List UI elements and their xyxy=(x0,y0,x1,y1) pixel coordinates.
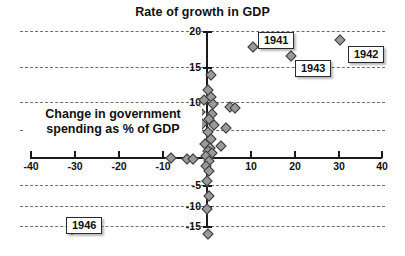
x-tick-label-10: 10 xyxy=(245,160,257,172)
x-tick-label-neg30: -30 xyxy=(67,160,82,172)
callout-1946: 1946 xyxy=(66,217,102,234)
data-point xyxy=(216,140,227,151)
x-tick-neg30 xyxy=(74,151,76,158)
y-tick-label-neg10: -10 xyxy=(172,200,201,212)
x-axis-title: Change in government spending as % of GD… xyxy=(24,107,202,137)
x-tick-30 xyxy=(338,151,340,158)
x-tick-neg40 xyxy=(30,151,32,158)
y-tick-label-neg15: -15 xyxy=(172,220,201,232)
x-tick-label-neg40: -40 xyxy=(23,160,38,172)
callout-1943: 1943 xyxy=(295,60,331,77)
data-point xyxy=(220,122,231,133)
y-tick-label-15: 15 xyxy=(178,61,201,73)
data-point-1942 xyxy=(334,34,345,45)
callout-1942: 1942 xyxy=(348,46,384,63)
callout-1941: 1941 xyxy=(258,32,294,49)
data-point xyxy=(203,229,214,240)
data-point xyxy=(229,103,240,114)
x-tick-neg20 xyxy=(118,151,120,158)
x-tick-label-40: 40 xyxy=(376,160,388,172)
x-tick-10 xyxy=(250,151,252,158)
x-tick-label-20: 20 xyxy=(289,160,301,172)
y-tick-label-20: 20 xyxy=(178,25,201,37)
y-tick-label-neg5: -5 xyxy=(175,179,201,191)
data-point xyxy=(203,190,214,201)
x-tick-40 xyxy=(381,151,383,158)
x-tick-20 xyxy=(294,151,296,158)
x-tick-neg10 xyxy=(162,151,164,158)
x-tick-label-30: 30 xyxy=(333,160,345,172)
x-tick-label-neg20: -20 xyxy=(111,160,126,172)
scatter-chart: Rate of growth in GDP -40 -30 -20 xyxy=(0,0,405,256)
y-tick-20 xyxy=(203,31,212,33)
